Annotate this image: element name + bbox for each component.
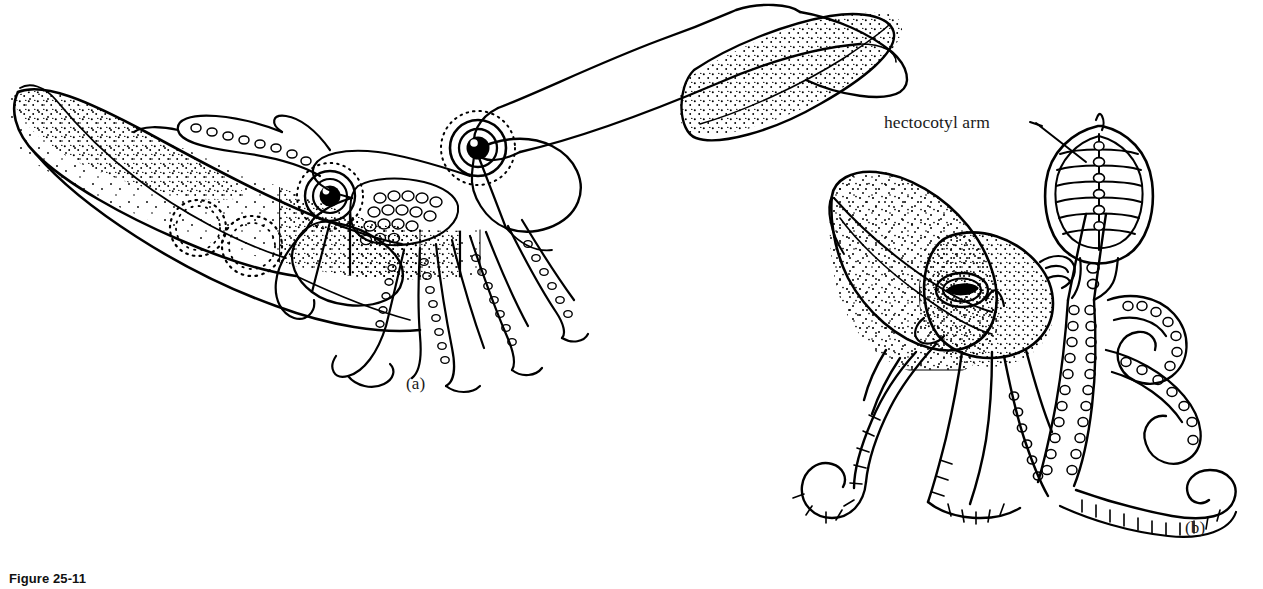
squid-illustration bbox=[0, 0, 940, 392]
octopus-arms-left bbox=[793, 344, 1052, 524]
panel-label-b: (b) bbox=[1185, 518, 1205, 538]
figure-illustration bbox=[0, 0, 1263, 589]
figure-caption: Figure 25-11 bbox=[9, 571, 86, 586]
panel-label-a: (a) bbox=[406, 374, 425, 394]
octopus-arms-right bbox=[1060, 296, 1236, 537]
figure-root: hectocotyl arm (a) (b) Figure 25-11 bbox=[0, 0, 1263, 589]
hectocotyl-leader-line bbox=[1036, 123, 1086, 162]
hectocotyl-arm-label: hectocotyl arm bbox=[884, 112, 990, 133]
octopus-illustration bbox=[793, 114, 1236, 537]
hectocotyl-arm bbox=[1038, 114, 1153, 486]
squid-far-body bbox=[474, 0, 940, 170]
squid-near-body bbox=[0, 70, 480, 340]
squid-eye-far bbox=[441, 111, 515, 185]
